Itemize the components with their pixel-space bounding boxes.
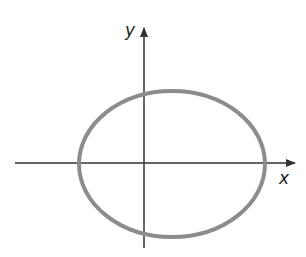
ellipse-curve bbox=[79, 91, 265, 237]
x-axis-label: x bbox=[279, 170, 289, 187]
y-axis-label: y bbox=[125, 22, 135, 39]
coordinate-diagram bbox=[0, 0, 306, 257]
